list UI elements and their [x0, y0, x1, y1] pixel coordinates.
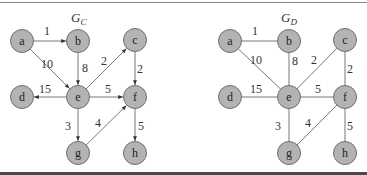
edge-g-f: 4	[86, 105, 126, 145]
node-label: e	[286, 90, 291, 104]
node-label: d	[19, 90, 25, 104]
node-label: f	[133, 90, 137, 104]
node-label: g	[75, 146, 81, 160]
edge-weight-label: 5	[347, 119, 353, 133]
edge-weight-label: 3	[65, 119, 71, 133]
node-e: e	[67, 86, 90, 109]
node-g: g	[278, 142, 301, 165]
node-label: b	[75, 34, 81, 48]
edge-c-f: 2	[345, 52, 353, 86]
arrow-line	[86, 105, 126, 145]
edge-weight-label: 2	[311, 53, 317, 67]
edge-weight-label: 3	[275, 119, 281, 133]
edge-weight-label: 4	[95, 116, 101, 130]
edge-weight-label: 1	[44, 24, 50, 38]
edge-e-g: 3	[65, 109, 78, 142]
graph-gc-title: GC	[71, 10, 87, 27]
edge-weight-label: 5	[138, 119, 144, 133]
edge-weight-label: 10	[41, 57, 53, 71]
graphs-canvas: GC GD 110822155345abcdefgh110822155345ab…	[0, 0, 367, 175]
edge-c-f: 2	[135, 52, 143, 86]
node-c: c	[124, 29, 147, 52]
edge-weight-label: 2	[137, 62, 143, 76]
edge-e-d: 15	[242, 82, 278, 97]
edge-weight-label: 1	[252, 24, 258, 38]
edge-weight-label: 2	[347, 62, 353, 76]
node-label: c	[342, 33, 347, 47]
node-label: h	[342, 146, 348, 160]
node-label: e	[75, 90, 80, 104]
node-label: g	[286, 146, 292, 160]
edge-f-h: 5	[135, 109, 144, 142]
node-a: a	[219, 30, 242, 53]
node-c: c	[334, 29, 357, 52]
edge-weight-label: 15	[250, 82, 262, 96]
edge-weight-label: 15	[39, 82, 51, 96]
node-label: c	[132, 33, 137, 47]
node-label: f	[343, 90, 347, 104]
edge-e-f: 5	[301, 82, 334, 97]
edge-weight-label: 5	[105, 82, 111, 96]
graph-gc-title-text: GC	[71, 10, 87, 27]
node-h: h	[334, 142, 357, 165]
node-e: e	[278, 86, 301, 109]
edge-g-f: 4	[297, 105, 337, 145]
node-label: a	[19, 34, 25, 48]
edge-e-g: 3	[275, 109, 289, 142]
node-d: d	[11, 86, 34, 109]
edge-weight-label: 2	[101, 54, 107, 68]
node-a: a	[11, 30, 34, 53]
node-label: a	[227, 34, 233, 48]
edge-a-b: 1	[34, 24, 67, 41]
node-f: f	[334, 86, 357, 109]
edge-a-b: 1	[242, 24, 278, 41]
edge-line	[297, 105, 337, 145]
figure-frame: GC GD 110822155345abcdefgh110822155345ab…	[0, 0, 367, 175]
node-label: d	[227, 90, 233, 104]
node-g: g	[67, 142, 90, 165]
node-f: f	[124, 86, 147, 109]
node-b: b	[278, 30, 301, 53]
edge-weight-label: 8	[82, 61, 88, 75]
edge-b-e: 8	[289, 53, 298, 86]
edge-weight-label: 10	[250, 53, 262, 67]
edge-weight-label: 5	[315, 82, 321, 96]
graph-gd: 110822155345abcdefgh	[219, 24, 357, 165]
graph-layer: 110822155345abcdefgh110822155345abcdefgh	[11, 24, 357, 165]
graph-gd-title-text: GD	[281, 10, 297, 27]
edge-b-e: 8	[78, 53, 88, 86]
graph-gd-title: GD	[281, 10, 297, 27]
graph-gc: 110822155345abcdefgh	[11, 24, 147, 165]
edge-weight-label: 4	[305, 116, 311, 130]
node-b: b	[67, 30, 90, 53]
edge-f-h: 5	[345, 109, 353, 142]
edge-e-f: 5	[90, 82, 124, 97]
node-d: d	[219, 86, 242, 109]
node-h: h	[124, 142, 147, 165]
node-label: b	[286, 34, 292, 48]
node-label: h	[132, 146, 138, 160]
edge-weight-label: 8	[292, 54, 298, 68]
edge-e-d: 15	[34, 82, 67, 97]
